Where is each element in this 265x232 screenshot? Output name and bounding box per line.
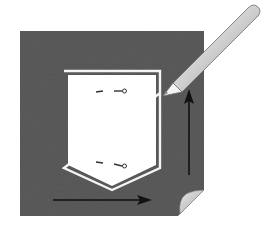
pocket-diagram: [0, 0, 265, 232]
pocket-template: [68, 75, 156, 186]
